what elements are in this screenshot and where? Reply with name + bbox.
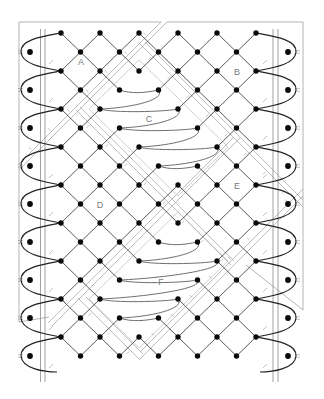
pin-dot xyxy=(214,296,219,301)
pin-dot xyxy=(195,277,200,282)
band-tick xyxy=(124,52,126,54)
pin-dot xyxy=(117,353,122,358)
footside-tick-left xyxy=(49,98,53,102)
region-label-c: C xyxy=(146,114,153,124)
grid-line xyxy=(237,128,257,147)
footside-pin-right xyxy=(285,163,291,169)
band-tick xyxy=(187,95,189,97)
footside-tick-right xyxy=(263,212,267,216)
grid-line xyxy=(139,33,159,52)
grid-line xyxy=(61,90,81,109)
grid-line xyxy=(198,337,218,356)
grid-line xyxy=(178,204,198,223)
grid-line xyxy=(217,223,237,242)
region-label-b: B xyxy=(234,67,240,77)
grid-line xyxy=(61,242,81,261)
band-tick xyxy=(127,351,129,353)
footside-thread-left xyxy=(21,223,61,261)
grid-line xyxy=(178,318,198,337)
pin-dot xyxy=(58,296,63,301)
grid-line xyxy=(120,166,140,185)
worker-thread-segment-c xyxy=(100,109,178,112)
pin-dot xyxy=(117,315,122,320)
pin-dot xyxy=(214,182,219,187)
grid-line xyxy=(237,299,257,318)
pin-dot xyxy=(97,68,102,73)
footside-thread-left xyxy=(21,147,61,185)
grid-line xyxy=(217,318,237,337)
worker-thread-segment-f xyxy=(120,318,159,321)
grid-line xyxy=(61,280,81,299)
footside-pin-left xyxy=(27,239,33,245)
region-label-e: E xyxy=(234,181,240,191)
region-label-d: D xyxy=(97,200,104,210)
band-tick xyxy=(86,90,88,92)
grid-line xyxy=(198,299,218,318)
pin-dot xyxy=(175,220,180,225)
pin-dot xyxy=(58,182,63,187)
grid-line xyxy=(198,280,218,299)
pin-dot xyxy=(195,201,200,206)
grid-line xyxy=(178,185,198,204)
pin-dot xyxy=(156,87,161,92)
band-tick xyxy=(89,313,91,315)
grid-line xyxy=(100,242,120,261)
band-tick xyxy=(168,76,170,78)
footside-thread-left xyxy=(21,33,61,71)
footside-tick-right xyxy=(263,60,267,64)
pin-dot xyxy=(175,68,180,73)
grid-line xyxy=(61,185,81,204)
footside-pin-right xyxy=(285,125,291,131)
footside-pin-right xyxy=(285,87,291,93)
pin-dot xyxy=(78,277,83,282)
pin-dot xyxy=(253,182,258,187)
grid-line xyxy=(81,337,101,356)
pin-dot xyxy=(195,315,200,320)
band-line-nw xyxy=(19,22,167,170)
grid-line xyxy=(198,204,218,223)
footside-pin-right xyxy=(285,239,291,245)
footside-pin-right xyxy=(285,201,291,207)
grid-line xyxy=(81,147,101,166)
pin-dot xyxy=(78,201,83,206)
footside-tick-left xyxy=(49,364,53,368)
footside-tick-right xyxy=(263,326,267,330)
region-label-a: A xyxy=(78,57,84,67)
footside-pin-right xyxy=(285,49,291,55)
band-tick xyxy=(143,33,145,35)
grid-line xyxy=(217,261,237,280)
footside-pin-left xyxy=(27,163,33,169)
lace-pricking-diagram: A B C D E F xyxy=(0,0,324,399)
frame-bottom-right-notch xyxy=(246,265,303,310)
pin-dot xyxy=(97,258,102,263)
footside-pin-right xyxy=(285,353,291,359)
footside-pin-left xyxy=(27,201,33,207)
grid-line xyxy=(198,166,218,185)
grid-line xyxy=(217,147,237,166)
pin-dot xyxy=(78,163,83,168)
grid-line xyxy=(198,318,218,337)
grid-line xyxy=(61,147,81,166)
footside-pin-right xyxy=(285,315,291,321)
band-tick xyxy=(225,134,227,136)
band-tick xyxy=(87,125,89,127)
pin-dot xyxy=(136,220,141,225)
pin-dot xyxy=(97,144,102,149)
band-tick xyxy=(220,259,222,261)
pin-dot xyxy=(78,239,83,244)
pin-dot xyxy=(195,49,200,54)
grid-line xyxy=(61,299,81,318)
footside-pin-left xyxy=(27,353,33,359)
grid-line xyxy=(100,261,120,280)
grid-line xyxy=(178,90,198,109)
grid-line xyxy=(61,204,81,223)
pin-dot xyxy=(78,315,83,320)
pin-dot xyxy=(234,201,239,206)
pin-dot xyxy=(175,334,180,339)
grid-line xyxy=(100,337,120,356)
pin-dot xyxy=(214,30,219,35)
footside-tick-right xyxy=(263,250,267,254)
worker-thread-segment-f xyxy=(159,242,198,245)
pin-dot xyxy=(234,315,239,320)
footside-pin-left xyxy=(27,49,33,55)
